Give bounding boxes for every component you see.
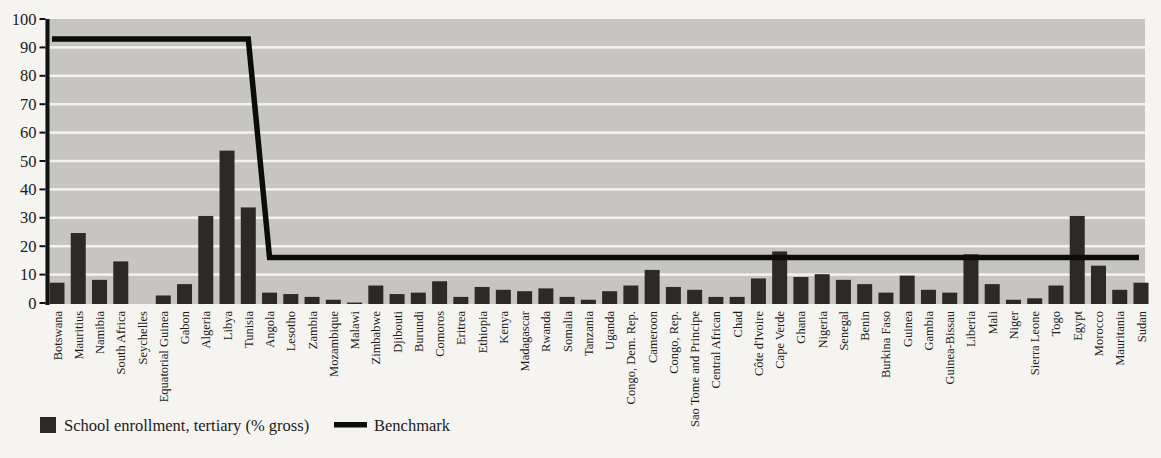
bar-congo-rep-	[666, 287, 681, 304]
y-tick-40	[40, 188, 46, 190]
y-tick-label-50: 50	[20, 152, 37, 171]
bar-angola	[262, 293, 277, 304]
x-label-sudan: Sudan	[1135, 310, 1149, 342]
y-tick-label-90: 90	[20, 38, 37, 57]
y-tick-80	[40, 75, 46, 77]
x-label-libya: Libya	[221, 311, 235, 341]
y-tick-50	[40, 160, 46, 162]
x-label-chad: Chad	[731, 310, 745, 337]
bar-mozambique	[326, 300, 341, 304]
gridline-80	[46, 75, 1146, 78]
x-label-equatorial-guinea: Equatorial Guinea	[157, 311, 171, 403]
y-tick-label-30: 30	[20, 208, 37, 227]
bar-togo	[1048, 286, 1063, 304]
bar-libya	[220, 151, 235, 304]
gridline-50	[46, 160, 1146, 163]
x-label-liberia: Liberia	[964, 311, 978, 348]
bar-gambia	[921, 290, 936, 304]
bar-burkina-faso	[878, 293, 893, 304]
plot-area: 0102030405060708090100BotswanaMauritiusN…	[12, 10, 1149, 427]
x-label-guinea-bissau: Guinea-Bissau	[943, 310, 957, 384]
x-label-sao-tome-and-principe: Sao Tome and Principe	[688, 311, 702, 427]
bar-liberia	[963, 254, 978, 304]
x-label-mauritania: Mauritania	[1113, 311, 1127, 366]
legend-series-label: School enrollment, tertiary (% gross)	[64, 416, 309, 435]
bar-zimbabwe	[368, 286, 383, 304]
y-tick-label-40: 40	[20, 180, 37, 199]
bar-malawi	[347, 303, 362, 304]
x-label-gabon: Gabon	[178, 310, 192, 344]
bar-uganda	[602, 291, 617, 304]
x-label-togo: Togo	[1049, 311, 1063, 337]
x-label-algeria: Algeria	[199, 311, 213, 349]
bar-lesotho	[283, 294, 298, 304]
bar-nigeria	[815, 274, 830, 304]
y-tick-10	[40, 274, 46, 276]
x-label-zimbabwe: Zimbabwe	[369, 311, 383, 365]
x-label-mauritius: Mauritius	[72, 311, 86, 360]
bar-niger	[1006, 300, 1021, 304]
x-label-burkina-faso: Burkina Faso	[879, 311, 893, 378]
bar-madagascar	[517, 291, 532, 304]
bar-morocco	[1091, 266, 1106, 304]
y-tick-label-10: 10	[20, 265, 37, 284]
gridline-40	[46, 188, 1146, 191]
x-label-mali: Mali	[986, 310, 1000, 334]
y-tick-90	[40, 46, 46, 48]
bar-central-african	[708, 297, 723, 304]
x-label-rwanda: Rwanda	[539, 311, 553, 352]
y-axis-line	[46, 19, 50, 305]
x-label-sierra-leone: Sierra Leone	[1028, 311, 1042, 376]
x-label-ghana: Ghana	[794, 311, 808, 344]
bar-senegal	[836, 280, 851, 304]
x-label-madagascar: Madagascar	[518, 310, 532, 371]
y-tick-label-70: 70	[20, 95, 37, 114]
enrollment-benchmark-chart: 0102030405060708090100BotswanaMauritiusN…	[0, 0, 1161, 458]
bar-ethiopia	[475, 287, 490, 304]
x-label-tunisia: Tunisia	[242, 311, 256, 349]
bar-guinea	[900, 276, 915, 304]
bar-namibia	[92, 280, 107, 304]
x-label-botswana: Botswana	[51, 311, 65, 361]
legend: School enrollment, tertiary (% gross) Be…	[40, 416, 451, 435]
x-label-seychelles: Seychelles	[136, 311, 150, 365]
gridline-70	[46, 103, 1146, 106]
bar-tanzania	[581, 300, 596, 304]
bar-kenya	[496, 290, 511, 304]
y-tick-label-20: 20	[20, 237, 37, 256]
bar-c-te-d-ivoire	[751, 278, 766, 304]
x-label-gambia: Gambia	[922, 311, 936, 351]
x-label-south-africa: South Africa	[114, 311, 128, 375]
y-tick-label-60: 60	[20, 123, 37, 142]
y-tick-70	[40, 103, 46, 105]
y-tick-label-100: 100	[12, 10, 37, 29]
x-label-senegal: Senegal	[837, 310, 851, 350]
x-label-tanzania: Tanzania	[582, 311, 596, 356]
y-tick-60	[40, 132, 46, 134]
x-label-ethiopia: Ethiopia	[476, 311, 490, 354]
x-label-c-te-d-ivoire: Côte d'Ivoire	[752, 311, 766, 377]
bar-mauritius	[71, 233, 86, 304]
legend-benchmark-label: Benchmark	[374, 416, 451, 435]
bar-benin	[857, 284, 872, 304]
x-label-morocco: Morocco	[1092, 311, 1106, 356]
x-label-eritrea: Eritrea	[454, 311, 468, 345]
bar-sudan	[1134, 283, 1149, 304]
y-tick-100	[40, 18, 46, 20]
x-label-benin: Benin	[858, 310, 872, 341]
x-label-central-african: Central African	[709, 310, 723, 388]
x-label-namibia: Namibia	[93, 311, 107, 354]
x-label-uganda: Uganda	[603, 311, 617, 350]
bar-tunisia	[241, 207, 256, 304]
bar-mali	[985, 284, 1000, 304]
x-label-egypt: Egypt	[1071, 310, 1085, 340]
y-tick-0	[40, 302, 46, 304]
bar-somalia	[560, 297, 575, 304]
x-label-cameroon: Cameroon	[646, 310, 660, 363]
bar-equatorial-guinea	[156, 295, 171, 304]
bar-zambia	[305, 297, 320, 304]
chart-canvas: 0102030405060708090100BotswanaMauritiusN…	[0, 0, 1161, 458]
x-label-congo-rep-: Congo, Rep.	[667, 311, 681, 374]
bar-sierra-leone	[1027, 298, 1042, 304]
gridline-60	[46, 131, 1146, 134]
